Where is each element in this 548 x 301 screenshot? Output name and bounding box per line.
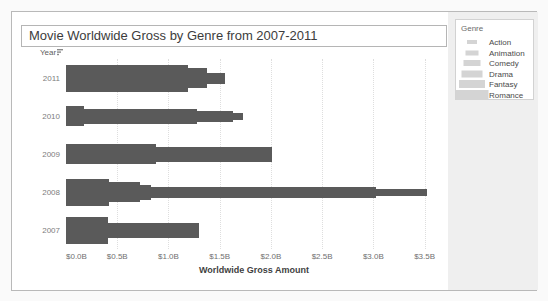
x-tick-label: $3.5B (414, 252, 435, 261)
year-label-2010[interactable]: 2010 (22, 112, 60, 121)
bar-mark-2008-animation[interactable] (66, 189, 427, 196)
chart-title: Movie Worldwide Gross by Genre from 2007… (21, 25, 447, 47)
legend-size-swatch (464, 60, 481, 66)
bar-mark-2007-drama[interactable] (66, 223, 199, 238)
legend-label: Romance (489, 90, 523, 99)
legend-column: Genre ActionAnimationComedyDramaFantasyR… (448, 12, 538, 290)
year-label-2008[interactable]: 2008 (22, 188, 60, 197)
dashboard: Movie Worldwide Gross by Genre from 2007… (11, 11, 537, 291)
x-axis: $0.0B$0.5B$1.0B$1.5B$2.0B$2.5B$3.0B$3.5B (66, 252, 442, 262)
legend-item-comedy[interactable]: Comedy (456, 58, 533, 69)
chart-worksheet: Movie Worldwide Gross by Genre from 2007… (12, 12, 448, 290)
bar-row-2010: 2010 (66, 97, 442, 135)
legend-label: Comedy (489, 59, 519, 68)
year-field-header[interactable]: Year (40, 48, 64, 57)
legend-label: Drama (489, 69, 513, 78)
year-field-label: Year (40, 48, 56, 57)
legend-label: Animation (489, 48, 525, 57)
legend-item-romance[interactable]: Romance (456, 90, 533, 101)
legend-size-swatch (456, 90, 489, 100)
year-label-2007[interactable]: 2007 (22, 226, 60, 235)
x-axis-title: Worldwide Gross Amount (66, 265, 442, 275)
bar-mark-2011-comedy[interactable] (66, 73, 225, 84)
legend-size-swatch (462, 70, 483, 77)
legend-size-swatch (466, 50, 479, 55)
legend-item-action[interactable]: Action (456, 37, 533, 48)
legend-label: Action (489, 38, 511, 47)
bar-mark-2009-drama[interactable] (66, 147, 272, 162)
legend-size-swatch (467, 40, 477, 44)
bar-row-2011: 2011 (66, 59, 442, 97)
x-tick-label: $1.0B (158, 252, 179, 261)
legend-label: Fantasy (489, 80, 517, 89)
x-tick-label: $0.0B (66, 252, 87, 261)
legend-item-drama[interactable]: Drama (456, 69, 533, 80)
x-tick-label: $2.0B (260, 252, 281, 261)
bar-row-2007: 2007 (66, 211, 442, 249)
x-tick-label: $1.5B (209, 252, 230, 261)
x-tick-label: $2.5B (312, 252, 333, 261)
sort-icon[interactable] (57, 49, 64, 56)
x-tick-label: $3.0B (363, 252, 384, 261)
legend-item-animation[interactable]: Animation (456, 48, 533, 59)
legend-title: Genre (461, 24, 483, 33)
plot-area: 20112010200920082007 (66, 59, 442, 249)
bar-mark-2010-animation[interactable] (66, 113, 243, 120)
x-tick-label: $0.5B (107, 252, 128, 261)
year-label-2011[interactable]: 2011 (22, 74, 60, 83)
bar-row-2008: 2008 (66, 173, 442, 211)
legend-size-swatch (459, 80, 485, 88)
bar-row-2009: 2009 (66, 135, 442, 173)
legend-items: ActionAnimationComedyDramaFantasyRomance (456, 37, 533, 100)
genre-legend: Genre ActionAnimationComedyDramaFantasyR… (455, 19, 534, 100)
legend-item-fantasy[interactable]: Fantasy (456, 79, 533, 90)
year-label-2009[interactable]: 2009 (22, 150, 60, 159)
